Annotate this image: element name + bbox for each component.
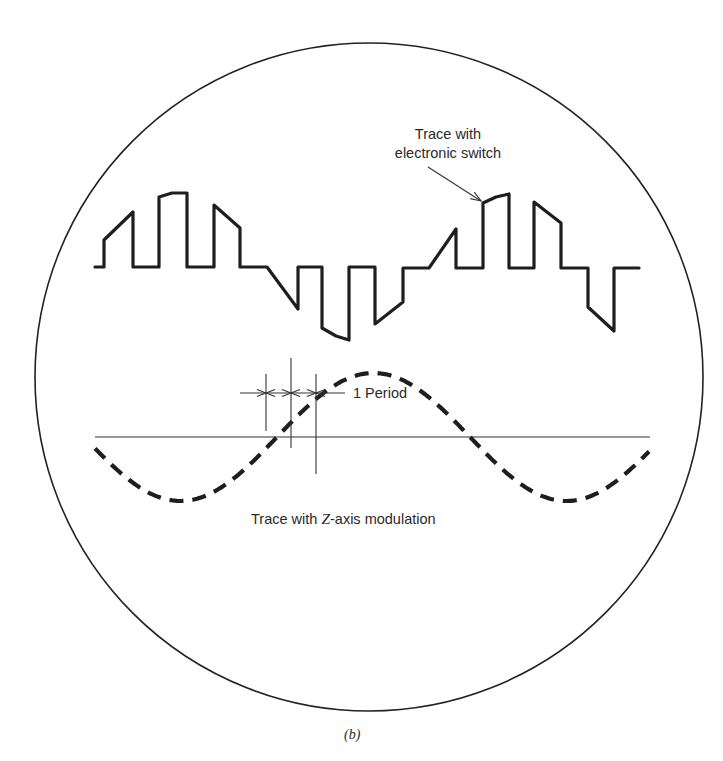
switch-trace-label: Trace with electronic switch bbox=[348, 125, 548, 163]
period-label: 1 Period bbox=[353, 386, 407, 401]
electronic-switch-trace bbox=[95, 193, 639, 340]
z-axis-label-italic: Z bbox=[321, 510, 330, 527]
z-axis-label-suffix: -axis modulation bbox=[330, 511, 436, 527]
oscilloscope-figure bbox=[0, 0, 723, 761]
pointer-arrow-icon bbox=[428, 167, 481, 201]
switch-trace-label-line2: electronic switch bbox=[348, 144, 548, 163]
figure-caption: (b) bbox=[344, 728, 360, 742]
z-axis-trace-label: Trace with Z-axis modulation bbox=[251, 511, 436, 527]
switch-trace-label-line1: Trace with bbox=[348, 125, 548, 144]
z-axis-label-prefix: Trace with bbox=[251, 511, 321, 527]
